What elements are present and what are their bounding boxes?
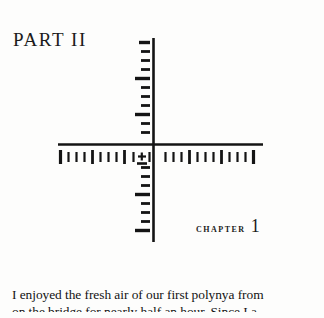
- body-text-line: I enjoyed the fresh air of our first pol…: [12, 286, 318, 303]
- chapter-number: 1: [251, 216, 260, 236]
- vertical-scale-ticks-below: [135, 168, 150, 231]
- horizontal-scale-ticks-left: [61, 150, 150, 164]
- vertical-scale-ticks-above: [135, 43, 150, 133]
- body-text-line: on the bridge for nearly half an hour. S…: [12, 303, 318, 312]
- chapter-word: CHAPTER: [196, 222, 246, 234]
- reticle-center-marker: [137, 153, 147, 164]
- horizontal-scale-ticks-right: [166, 150, 254, 164]
- chapter-label: CHAPTER1: [196, 216, 260, 237]
- reticle-axes: [58, 38, 263, 242]
- book-page: PART II: [0, 0, 324, 318]
- body-text-block: I enjoyed the fresh air of our first pol…: [12, 286, 318, 312]
- part-heading: PART II: [13, 29, 87, 51]
